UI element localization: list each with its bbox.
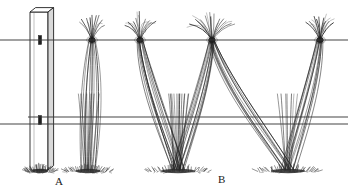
figure-label-b: B — [218, 174, 226, 185]
diagram-canvas: A B — [0, 0, 348, 196]
figure-label-a: A — [55, 176, 63, 187]
end-post — [30, 8, 54, 170]
vine-trellis-illustration — [0, 0, 348, 196]
